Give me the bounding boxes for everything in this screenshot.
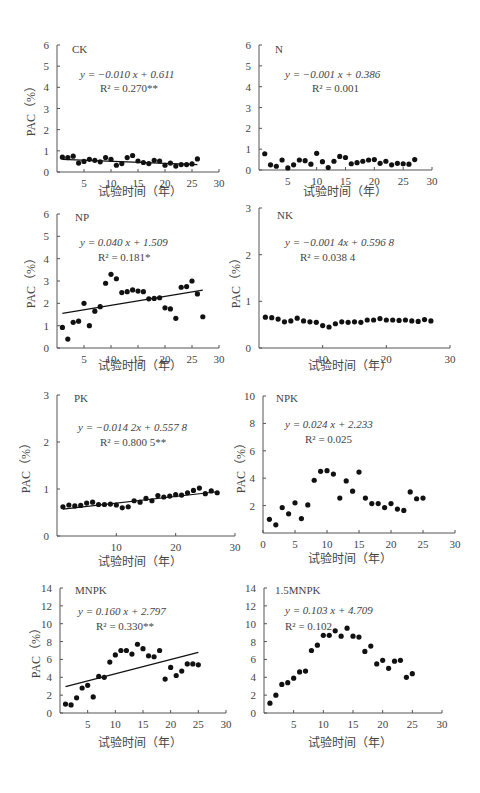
data-point — [292, 500, 297, 505]
x-axis-label: 试验时间（年） — [308, 735, 392, 750]
y-axis-label: PAC（%） — [24, 80, 38, 136]
data-point — [286, 511, 291, 516]
data-point — [279, 157, 284, 162]
panel-mnpk: 0246810121451015202530MNPKy = 0.160 x + … — [29, 582, 232, 750]
data-point — [288, 318, 293, 323]
data-point — [126, 504, 131, 509]
y-tick-label: 6 — [44, 39, 50, 51]
data-point — [60, 155, 65, 160]
data-point — [297, 157, 302, 162]
panel-1-5mnpk: 02468101214510152025301.5MNPKy = 0.103 x… — [245, 582, 448, 750]
data-point — [140, 646, 145, 651]
x-tick-label: 25 — [398, 175, 410, 187]
data-point — [291, 162, 296, 167]
data-point — [141, 160, 146, 165]
panel-label: 1.5MNPK — [275, 584, 321, 596]
data-point — [168, 161, 173, 166]
y-tick-label: 5 — [44, 230, 50, 242]
data-point — [380, 658, 385, 663]
data-point — [130, 287, 135, 292]
data-point — [368, 643, 373, 648]
data-point — [108, 501, 113, 506]
data-point — [120, 505, 125, 510]
data-point — [161, 494, 166, 499]
data-point — [388, 501, 393, 506]
data-point — [184, 284, 189, 289]
x-tick-label: 15 — [138, 718, 150, 730]
data-point — [66, 502, 71, 507]
data-point — [312, 478, 317, 483]
y-tick-label: 10 — [245, 618, 257, 630]
y-tick-label: 0 — [44, 342, 50, 354]
data-point — [80, 685, 85, 690]
data-point — [91, 694, 96, 699]
y-axis-label: PAC（%） — [234, 437, 248, 493]
x-tick-label: 30 — [445, 353, 457, 365]
data-point — [372, 157, 377, 162]
x-tick-label: 5 — [81, 177, 87, 189]
data-point — [363, 495, 368, 500]
y-tick-label: 10 — [244, 390, 256, 402]
data-point — [280, 505, 285, 510]
data-point — [349, 161, 354, 166]
data-point — [197, 485, 202, 490]
data-point — [339, 634, 344, 639]
data-point — [152, 158, 157, 163]
data-point — [416, 319, 421, 324]
data-point — [162, 305, 167, 310]
data-point — [263, 315, 268, 320]
data-point — [383, 159, 388, 164]
data-point — [149, 498, 154, 503]
data-point — [74, 695, 79, 700]
y-tick-label: 8 — [251, 636, 257, 648]
data-point — [274, 164, 279, 169]
x-tick-label: 10 — [111, 541, 123, 553]
data-point — [135, 158, 140, 163]
y-tick-label: 2 — [246, 249, 252, 261]
data-point — [374, 661, 379, 666]
x-tick-label: 10 — [110, 718, 122, 730]
data-point — [143, 496, 148, 501]
x-tick-label: 20 — [386, 538, 398, 550]
r-squared: R² = 0.330** — [96, 620, 154, 632]
data-point — [96, 502, 101, 507]
data-point — [146, 161, 151, 166]
panel-ck: 012345651015202530CKy = −0.010 x + 0.611… — [24, 39, 225, 199]
panel-label: N — [275, 43, 283, 55]
x-tick-label: 30 — [427, 175, 439, 187]
data-point — [163, 676, 168, 681]
data-point — [331, 159, 336, 164]
regression-equation: y = −0.010 x + 0.611 — [79, 68, 174, 80]
data-point — [107, 660, 112, 665]
data-point — [72, 503, 77, 508]
data-point — [384, 317, 389, 322]
x-tick-label: 20 — [165, 718, 177, 730]
y-tick-label: 2 — [251, 689, 257, 701]
data-point — [189, 161, 194, 166]
data-point — [87, 323, 92, 328]
data-point — [401, 161, 406, 166]
data-point — [108, 157, 113, 162]
data-point — [168, 665, 173, 670]
data-point — [299, 516, 304, 521]
x-tick-label: 5 — [81, 353, 87, 365]
y-tick-label: 1 — [246, 143, 252, 155]
data-point — [326, 324, 331, 329]
data-point — [129, 651, 134, 656]
data-point — [285, 165, 290, 170]
x-tick-label: 10 — [318, 718, 330, 730]
data-point — [167, 493, 172, 498]
x-tick-label: 15 — [354, 538, 366, 550]
panel-label: CK — [72, 43, 87, 55]
data-point — [369, 501, 374, 506]
y-tick-label: 4 — [44, 81, 50, 93]
x-tick-label: 25 — [187, 353, 199, 365]
data-point — [102, 675, 107, 680]
y-tick-label: 2 — [44, 436, 50, 448]
data-point — [60, 504, 65, 509]
y-tick-label: 2 — [246, 122, 252, 134]
data-point — [352, 319, 357, 324]
data-point — [273, 522, 278, 527]
data-point — [174, 673, 179, 678]
data-point — [386, 666, 391, 671]
